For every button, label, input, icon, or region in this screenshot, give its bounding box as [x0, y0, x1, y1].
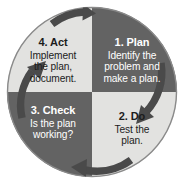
pdca-cycle-diagram: 4. Act Implement the plan, document. 1. … — [0, 0, 185, 184]
quadrant-body-check-line-1: Is the plan — [16, 118, 90, 130]
quadrant-body-plan-line-2: problem and — [95, 61, 169, 73]
quadrant-body-act-line-2: the plan, — [16, 61, 90, 73]
quadrant-title-plan: 1. Plan — [95, 36, 169, 50]
quadrant-body-act-line-1: Implement — [16, 50, 90, 62]
quadrant-body-check-line-2: working? — [16, 129, 90, 141]
quadrant-label-check: 3. Check Is the plan working? — [16, 104, 90, 141]
quadrant-title-act: 4. Act — [16, 36, 90, 50]
quadrant-body-plan-line-3: make a plan. — [95, 73, 169, 85]
quadrant-body-act-line-3: document. — [16, 73, 90, 85]
quadrant-label-do: 2. Do Test the plan. — [95, 110, 169, 147]
quadrant-title-do: 2. Do — [95, 110, 169, 124]
quadrant-title-check: 3. Check — [16, 104, 90, 118]
quadrant-body-plan-line-1: Identify the — [95, 50, 169, 62]
quadrant-label-plan: 1. Plan Identify the problem and make a … — [95, 36, 169, 84]
quadrant-body-do-line-1: Test the — [95, 124, 169, 136]
quadrant-label-act: 4. Act Implement the plan, document. — [16, 36, 90, 84]
pdca-diagram-graphic — [0, 0, 185, 184]
quadrant-body-do-line-2: plan. — [95, 135, 169, 147]
